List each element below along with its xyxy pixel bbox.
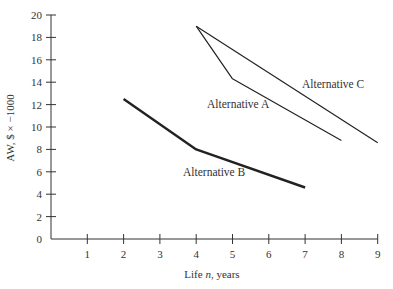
y-tick-label: 14 [31, 76, 43, 88]
x-tick-label: 3 [157, 248, 163, 260]
y-tick-label: 4 [37, 188, 43, 200]
y-tick-label: 12 [31, 99, 42, 111]
y-tick-label: 8 [37, 143, 43, 155]
x-tick-label: 4 [193, 248, 199, 260]
x-tick-label: 7 [302, 248, 308, 260]
x-tick-label: 5 [230, 248, 236, 260]
chart-canvas: 02468101214161820123456789 Alternative A… [0, 0, 393, 289]
y-tick-label: 2 [37, 211, 43, 223]
x-tick-label: 2 [121, 248, 127, 260]
x-tick-label: 6 [266, 248, 272, 260]
y-tick-label: 6 [37, 166, 43, 178]
label-alternative-b: Alternative B [183, 166, 246, 178]
y-tick-label: 20 [31, 9, 43, 21]
y-tick-label: 18 [31, 31, 43, 43]
x-axis-title-suffix: , years [211, 268, 240, 280]
label-alternative-c: Alternative C [302, 78, 365, 90]
x-axis-title-prefix: Life [184, 268, 205, 280]
y-tick-label: 16 [31, 54, 43, 66]
x-tick-label: 9 [375, 248, 381, 260]
y-axis-title: AW, $ × −1000 [4, 94, 16, 162]
x-axis-title: Life n, years [184, 268, 239, 280]
label-alternative-a: Alternative A [207, 98, 270, 110]
x-tick-label: 1 [85, 248, 91, 260]
axes: 02468101214161820123456789 [31, 9, 381, 260]
y-tick-label: 10 [31, 121, 43, 133]
y-tick-label: 0 [37, 233, 43, 245]
x-tick-label: 8 [339, 248, 345, 260]
